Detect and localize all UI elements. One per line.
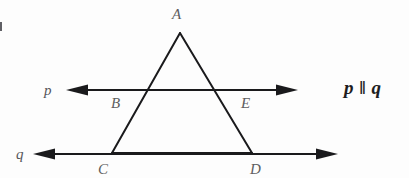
vertex-label-e: E [241, 96, 250, 111]
line-p [66, 85, 298, 96]
line-q-right-arrowhead [316, 149, 338, 160]
line-q [33, 149, 338, 160]
geometry-figure: A B E C D p q p ‖ q [0, 0, 409, 178]
vertex-label-b: B [111, 96, 120, 111]
vertex-label-a: A [172, 7, 181, 22]
triangle-side-ac [112, 33, 180, 153]
line-p-left-arrowhead [66, 85, 88, 96]
vertex-label-d: D [250, 162, 261, 177]
line-label-p: p [44, 83, 52, 98]
vertex-label-c: C [98, 162, 108, 177]
parallel-notation: p ‖ q [344, 78, 382, 97]
line-q-left-arrowhead [33, 149, 55, 160]
line-p-right-arrowhead [276, 85, 298, 96]
triangle-acd [112, 33, 252, 153]
triangle-side-ad [180, 33, 252, 153]
line-label-q: q [16, 147, 24, 162]
